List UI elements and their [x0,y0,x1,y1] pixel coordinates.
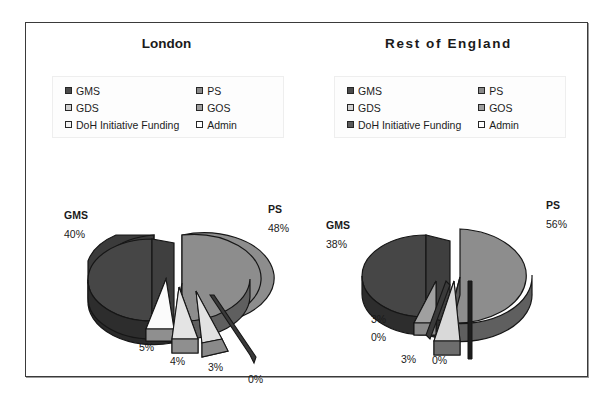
pie-label-gms-name: GMS [326,219,350,231]
pie-slice-ps[interactable] [448,229,532,342]
legend-label-gds: GDS [358,102,381,114]
pie-label-gos-value: 4% [170,355,185,367]
legend-row: DoH Initiative Funding Admin [57,116,279,133]
pie-label-gds-value: 5% [139,341,154,353]
pie-label-admin-value: 0% [248,373,263,385]
legend-swatch-admin [196,121,203,128]
legend-row: DoH Initiative Funding Admin [339,116,561,133]
legend-swatch-gos [478,104,485,111]
legend-label-gms: GMS [76,85,100,97]
legend-swatch-gos [196,104,203,111]
legend-swatch-gms [65,87,72,94]
legend-row: GDS GOS [57,99,279,116]
pie-label-admin-value: 0% [432,354,447,366]
legend-item-gos[interactable]: GOS [192,102,279,114]
legend-swatch-gds [65,104,72,111]
pie-slice-gms[interactable] [362,235,450,341]
pie-label-gms-value: 38% [326,238,347,250]
legend-swatch-ps [196,87,203,94]
chart-panel-rest-of-england: Rest of England GMS PS GDS [308,23,589,376]
legend-swatch-doh-initiative-funding [347,121,354,128]
legend-item-gos[interactable]: GOS [474,102,561,114]
legend-item-admin[interactable]: Admin [192,119,279,131]
legend-label-doh-initiative-funding: DoH Initiative Funding [358,119,461,131]
pie-label-ps-value: 48% [268,222,289,234]
legend-swatch-gms [347,87,354,94]
legend-swatch-ps [478,87,485,94]
legend-label-gms: GMS [358,85,382,97]
legend-rest-of-england: GMS PS GDS GOS D [334,76,566,138]
legend-label-ps: PS [207,85,221,97]
legend-label-doh-initiative-funding: DoH Initiative Funding [76,119,179,131]
pie-label-doh-value: 3% [401,353,416,365]
chart-title-rest-of-england: Rest of England [308,36,589,51]
chart-panel-london: London GMS PS GDS GOS [26,23,307,376]
pie-label-gds-value: 3% [371,313,386,325]
legend-row: GMS PS [57,82,279,99]
pie-label-ps-name: PS [268,203,282,215]
legend-swatch-doh-initiative-funding [65,121,72,128]
legend-label-ps: PS [489,85,503,97]
legend-item-gds[interactable]: GDS [57,102,192,114]
legend-label-gos: GOS [207,102,230,114]
legend-london: GMS PS GDS GOS D [52,76,284,138]
legend-swatch-admin [478,121,485,128]
pie-chart-rest-of-england: GMS 38% PS 56% 3% 0% 3% 0% [308,173,589,373]
pie-label-gms-name: GMS [64,209,88,221]
pie-label-ps-value: 56% [546,218,567,230]
chart-title-london: London [26,36,307,51]
legend-item-gms[interactable]: GMS [57,85,192,97]
legend-label-admin: Admin [489,119,519,131]
legend-item-admin[interactable]: Admin [474,119,561,131]
pie-slice-admin[interactable] [468,281,472,359]
legend-item-ps[interactable]: PS [474,85,561,97]
pie-chart-london: GMS 40% PS 48% 5% 4% 3% 0% [26,173,307,373]
legend-label-gos: GOS [489,102,512,114]
legend-item-gms[interactable]: GMS [339,85,474,97]
legend-item-doh-initiative-funding[interactable]: DoH Initiative Funding [57,119,192,131]
figure-frame: London GMS PS GDS GOS [25,22,588,377]
legend-row: GMS PS [339,82,561,99]
pie-label-doh-value: 3% [208,361,223,373]
pie-label-gms-value: 40% [64,228,85,240]
pie-label-gos-value: 0% [371,331,386,343]
legend-swatch-gds [347,104,354,111]
legend-item-doh-initiative-funding[interactable]: DoH Initiative Funding [339,119,474,131]
pie-svg-london [26,173,307,373]
pie-label-ps-name: PS [546,199,560,211]
legend-label-admin: Admin [207,119,237,131]
legend-row: GDS GOS [339,99,561,116]
legend-item-gds[interactable]: GDS [339,102,474,114]
legend-label-gds: GDS [76,102,99,114]
legend-item-ps[interactable]: PS [192,85,279,97]
